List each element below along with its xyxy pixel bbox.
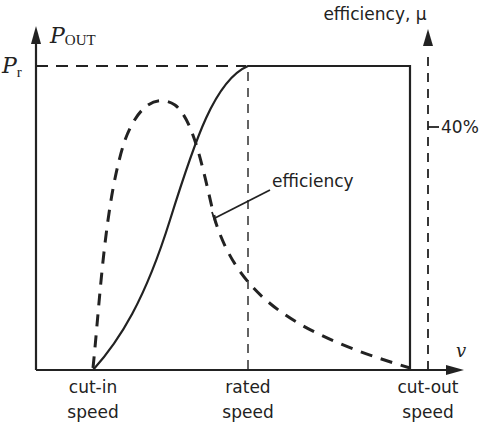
rated-label: rated bbox=[225, 377, 270, 397]
efficiency-axis-label: efficiency, μ bbox=[323, 4, 426, 24]
y-axis-label: POUT bbox=[49, 23, 96, 48]
cut-out-label-2: speed bbox=[402, 402, 453, 422]
cut-in-label-2: speed bbox=[67, 402, 118, 422]
efficiency-annotation-label: efficiency bbox=[272, 171, 354, 191]
power-curve-diagram: POUT Pr efficiency, μ 40% v efficiency c… bbox=[0, 0, 492, 431]
chart-canvas: POUT Pr efficiency, μ 40% v efficiency c… bbox=[0, 0, 492, 431]
efficiency-40-label: 40% bbox=[441, 117, 479, 137]
efficiency-curve bbox=[93, 101, 410, 368]
efficiency-axis-arrow-icon bbox=[423, 29, 433, 46]
cut-in-label: cut-in bbox=[69, 377, 117, 397]
x-axis-label: v bbox=[456, 340, 466, 361]
x-axis-arrow-icon bbox=[446, 365, 464, 375]
rated-power-label: Pr bbox=[1, 53, 22, 80]
power-curve bbox=[36, 66, 410, 370]
cut-out-label: cut-out bbox=[397, 377, 458, 397]
efficiency-annotation-leader bbox=[215, 190, 270, 218]
rated-label-2: speed bbox=[222, 402, 273, 422]
y-axis-arrow-icon bbox=[31, 26, 41, 44]
